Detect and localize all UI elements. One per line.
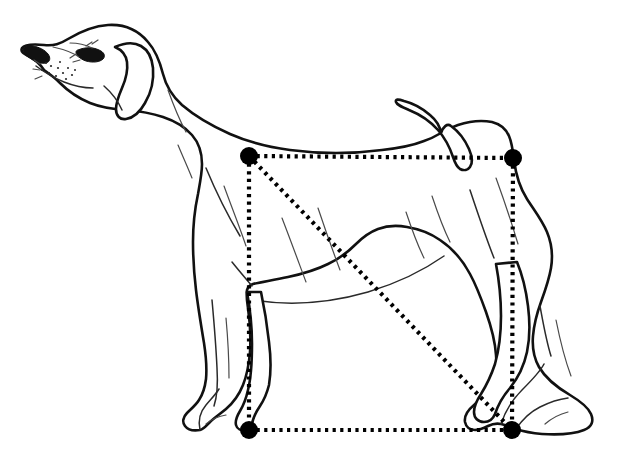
measure-node-top-right[interactable] xyxy=(504,149,522,167)
measure-node-bottom-right[interactable] xyxy=(503,421,521,439)
diagram-canvas xyxy=(0,0,617,453)
measure-node-top-left[interactable] xyxy=(240,147,258,165)
dog-measurement-illustration xyxy=(0,0,617,453)
measure-node-bottom-left[interactable] xyxy=(240,421,258,439)
